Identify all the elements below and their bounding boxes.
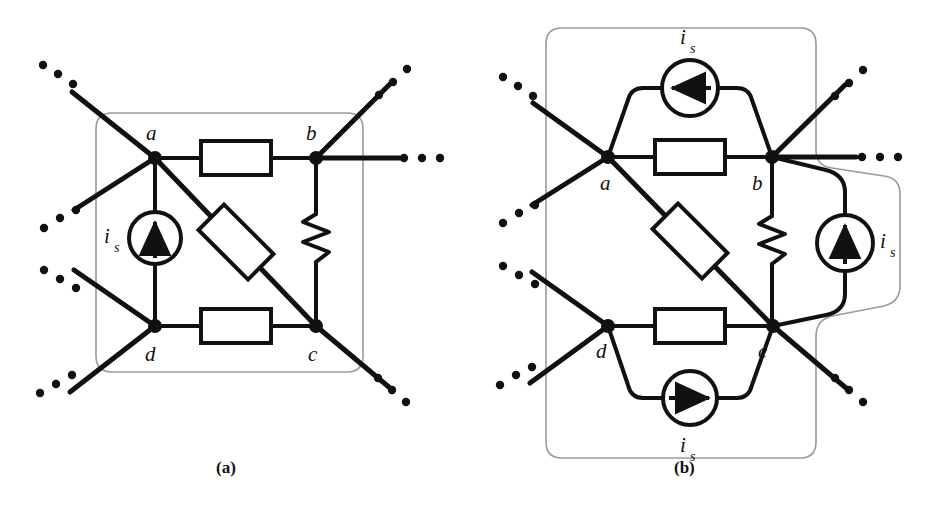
panel-b-source-bottom-label: i [680,433,686,457]
panel-b-source-right-sublabel: s [890,245,896,260]
panel-b-source-right-label: i [880,229,886,253]
panel-a-ellipsis-upper-left [39,61,77,88]
panel-b-node-c [766,319,780,333]
panel-a-node-d [148,319,162,333]
panel-b-ellipsis-upper-left [499,73,537,100]
panel-b-source-top-sublabel: s [690,41,696,56]
panel-a-node-c [309,319,323,333]
panel-b-ellipsis-lower-right [831,374,867,406]
panel-b-node-label-d: d [596,339,607,363]
panel-a-node-label-b: b [306,121,317,145]
panel-b-node-label-a: a [600,171,611,195]
panel-a-source-sublabel: s [114,240,120,255]
panel-a-node-a [148,151,162,165]
panel-a-ellipsis-lower-right [374,374,410,406]
panel-a-ellipsis-mid-right [400,154,444,162]
panel-a-source-label: i [104,224,110,248]
panel-b-resistor-bc [759,216,785,264]
panel-a-node-b [309,151,323,165]
panel-b-ellipsis-mid-left [499,201,539,227]
panel-b-right-branch-wire-top [772,157,845,215]
panel-a-node-label-d: d [145,342,156,366]
panel-b-node-a [601,150,615,164]
panel-a-node-label-a: a [146,121,157,145]
panel-b-current-source-right [817,215,873,271]
panel-a-caption: (a) [216,458,236,478]
panel-b-source-top-label: i [680,25,686,49]
panel-a: i s a b c d [36,61,444,406]
circuit-figure: i s a b c d [0,0,948,524]
panel-b-current-source-top [662,60,718,116]
panel-b-resistor-ab [655,140,725,174]
panel-a-resistor-ab [201,141,271,175]
panel-b-node-label-c: c [758,339,768,363]
figure-canvas: i s a b c d [0,0,948,524]
panel-a-current-source [129,212,181,264]
panel-a-resistor-bc [303,214,329,262]
panel-a-ellipsis-upper-right [375,65,411,99]
panel-a-resistor-dc [201,309,271,343]
panel-a-node-label-c: c [308,342,318,366]
panel-a-ellipsis-mid-left [40,206,80,232]
panel-b-caption: (b) [674,458,695,478]
panel-b-right-branch-wire-bottom [773,271,845,326]
panel-b-node-label-b: b [752,171,763,195]
panel-b-node-b [765,150,779,164]
panel-b-ellipsis-mid-right [858,153,902,161]
panel-b-resistor-dc [655,309,725,343]
panel-b-current-source-bottom [663,371,717,425]
panel-b-node-d [601,319,615,333]
panel-b-ellipsis-upper-right [831,66,867,100]
panel-b: i s i s i s a b c d [496,25,902,464]
